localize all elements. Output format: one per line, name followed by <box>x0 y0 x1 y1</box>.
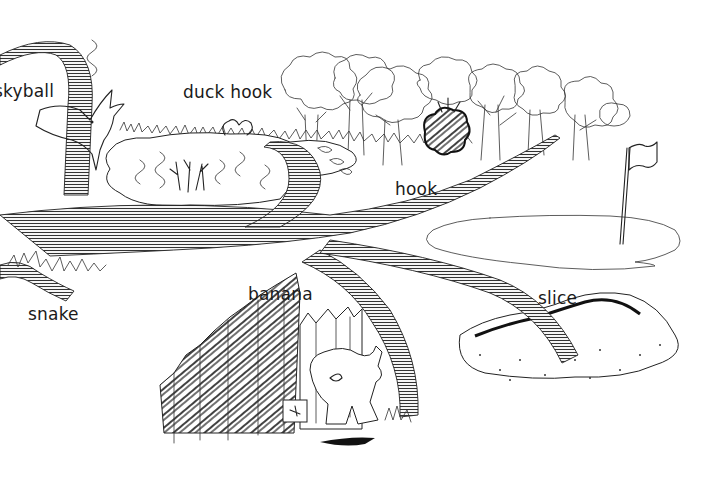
dark-bush <box>424 98 469 155</box>
label-skyball: skyball <box>0 83 54 100</box>
pond-hazard <box>106 120 356 206</box>
label-duck-hook: duck hook <box>183 84 272 101</box>
label-slice: slice <box>538 290 577 307</box>
golfer <box>283 346 382 446</box>
golf-shots-illustration <box>0 0 726 480</box>
label-banana: banana <box>248 286 313 303</box>
golf-bag <box>283 400 307 422</box>
label-snake: snake <box>28 306 79 323</box>
putting-green <box>426 215 680 269</box>
label-hook: hook <box>395 181 437 198</box>
skyball-path <box>0 42 92 195</box>
flagstick[interactable] <box>620 142 657 244</box>
